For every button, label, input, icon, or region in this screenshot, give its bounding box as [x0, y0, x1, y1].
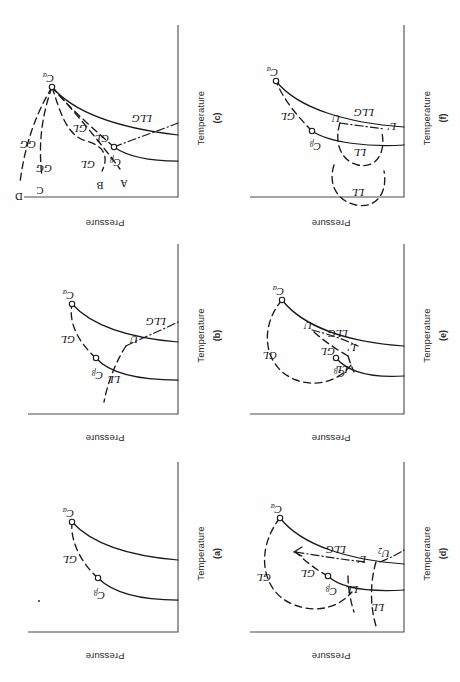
- label-llg: LLG: [326, 544, 347, 556]
- label-c-alpha: Cα: [42, 71, 54, 85]
- label-gl-inner: GL: [321, 346, 335, 358]
- curve-critical-locus-gl: [71, 304, 96, 358]
- curve-vapour-pressure-alpha: [52, 87, 178, 135]
- curve-vapour-pressure-beta: [98, 578, 178, 600]
- panel-b: Cβ Cα GL LL U LLG Temperature Pr: [10, 229, 232, 442]
- curve-three-phase-llg: [114, 123, 178, 147]
- label-gg-c: GG: [36, 163, 52, 175]
- phase-diagram-figure: Cβ Cα GL Temperature Pressure (a): [0, 0, 460, 682]
- label-ll: LL: [108, 374, 121, 386]
- label-gl-inner: GL: [95, 133, 109, 145]
- panel-d-y-axis-title: Pressure: [312, 651, 351, 662]
- panel-f: Cβ Cα GL U LL LL LLG: [236, 9, 458, 227]
- rotated-page-wrapper: Cβ Cα GL Temperature Pressure (a): [0, 0, 460, 682]
- label-u: U: [129, 334, 138, 346]
- panel-c: Cβ Cα GL LLG GL GL GG: [10, 9, 232, 227]
- label-u2: U2: [378, 546, 390, 560]
- label-gl-outer: GL: [263, 350, 277, 362]
- label-gl: GL: [281, 111, 295, 123]
- panel-e-x-axis-title: Temperature: [421, 229, 432, 442]
- panel-e-label: (e): [438, 229, 448, 442]
- label-l-prime: L': [347, 342, 357, 354]
- panel-e-axes: [250, 244, 404, 414]
- curve-critical-locus-gl: [72, 522, 98, 578]
- label-gl-a: GL: [73, 123, 87, 135]
- label-c-beta: Cβ: [310, 139, 321, 153]
- label-c-beta: Cβ: [92, 368, 103, 382]
- panel-b-axes: [28, 244, 178, 414]
- label-branch-a: A: [120, 178, 128, 189]
- label-ll-right: LL: [354, 147, 367, 159]
- label-l-prime: L': [357, 554, 367, 566]
- stray-dot: [38, 600, 40, 602]
- panel-c-y-axis-title: Pressure: [86, 218, 125, 229]
- label-c-beta: Cβ: [326, 584, 337, 598]
- critical-point-c-beta-marker: [325, 573, 330, 578]
- panel-b-y-axis-title: Pressure: [86, 433, 125, 444]
- panel-f-y-axis-title: Pressure: [312, 218, 351, 229]
- panel-d-x-axis-title: Temperature: [421, 447, 432, 660]
- panel-e-y-axis-title: Pressure: [312, 433, 351, 444]
- label-ll-upper: LL: [346, 584, 359, 596]
- label-llg: LLG: [328, 328, 349, 340]
- label-u: U: [303, 320, 312, 332]
- critical-point-c-beta-marker: [95, 575, 100, 580]
- label-gl-b: GL: [81, 159, 95, 171]
- label-gg-d: GG: [20, 139, 36, 151]
- label-c-alpha: Cα: [270, 502, 282, 516]
- label-l-prime: L': [387, 121, 397, 133]
- label-c-beta: Cβ: [110, 155, 121, 169]
- label-u: U: [331, 113, 340, 125]
- panel-c-x-axis-title: Temperature: [195, 9, 206, 227]
- panel-a-x-axis-title: Temperature: [195, 447, 206, 660]
- panel-d: Cβ Cα GL GL LL LL LLG: [236, 447, 458, 660]
- panel-a: Cβ Cα GL Temperature Pressure (a): [10, 447, 232, 660]
- panel-e: Cβ Cα GL GL LL U LLG: [236, 229, 458, 442]
- label-c-alpha: Cα: [62, 506, 74, 520]
- arrow-head-inner-gl: [294, 547, 302, 556]
- label-ll-lower: LL: [372, 602, 385, 614]
- curve-critical-locus-ll-lower: [372, 562, 377, 626]
- panel-a-y-axis-title: Pressure: [86, 651, 125, 662]
- panel-a-axes: [28, 462, 178, 632]
- label-branch-d: D: [15, 191, 23, 202]
- panel-f-label: (f): [438, 9, 448, 227]
- critical-point-c-beta-marker: [93, 355, 98, 360]
- panel-f-axes: [250, 25, 404, 197]
- panel-f-x-axis-title: Temperature: [421, 9, 432, 227]
- curve-vapour-pressure-beta: [114, 147, 178, 161]
- label-c-alpha: Cα: [272, 284, 284, 298]
- label-gl-inner: GL: [301, 568, 315, 580]
- critical-point-c-beta-marker: [309, 128, 314, 133]
- panel-a-label: (a): [212, 447, 222, 660]
- panel-c-label: (c): [212, 9, 222, 227]
- label-c-alpha: Cα: [62, 288, 74, 302]
- critical-point-c-beta-marker: [111, 144, 116, 149]
- label-gl: GL: [63, 554, 77, 566]
- label-llg: LLG: [354, 107, 375, 119]
- label-gl: GL: [61, 334, 75, 346]
- panel-b-x-axis-title: Temperature: [195, 229, 206, 442]
- panel-b-label: (b): [212, 229, 222, 442]
- label-c-alpha: Cα: [266, 65, 278, 79]
- curve-vapour-pressure-alpha: [72, 522, 178, 560]
- label-gl-outer: GL: [257, 572, 271, 584]
- label-llg: LLG: [146, 316, 167, 328]
- curve-vapour-pressure-beta: [328, 576, 404, 590]
- label-c-beta: Cβ: [94, 588, 105, 602]
- label-ll: LL: [336, 364, 349, 376]
- label-ll-left: LL: [352, 187, 365, 199]
- label-branch-c: C: [36, 185, 43, 196]
- label-llg: LLG: [132, 113, 153, 125]
- panel-d-label: (d): [438, 447, 448, 660]
- label-branch-b: B: [96, 180, 103, 191]
